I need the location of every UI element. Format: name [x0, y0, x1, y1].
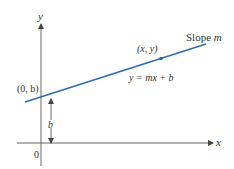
slope-label: Slope m	[186, 31, 222, 43]
intercept-label: (0, b)	[17, 83, 39, 95]
slope-intercept-diagram: y x 0 (0, b) (x, y) y = mx + b Slope m b	[0, 0, 234, 169]
y-axis-label: y	[37, 10, 43, 22]
b-measure-label: b	[48, 119, 53, 130]
slope-label-var: m	[214, 31, 222, 43]
point-label: (x, y)	[137, 43, 158, 55]
origin-label: 0	[34, 149, 39, 160]
point-x-y-marker	[159, 57, 163, 61]
slope-label-prefix: Slope	[186, 31, 214, 43]
equation-label: y = mx + b	[128, 72, 174, 83]
x-axis-label: x	[215, 136, 221, 148]
line-y-equals-mx-plus-b	[25, 44, 206, 102]
